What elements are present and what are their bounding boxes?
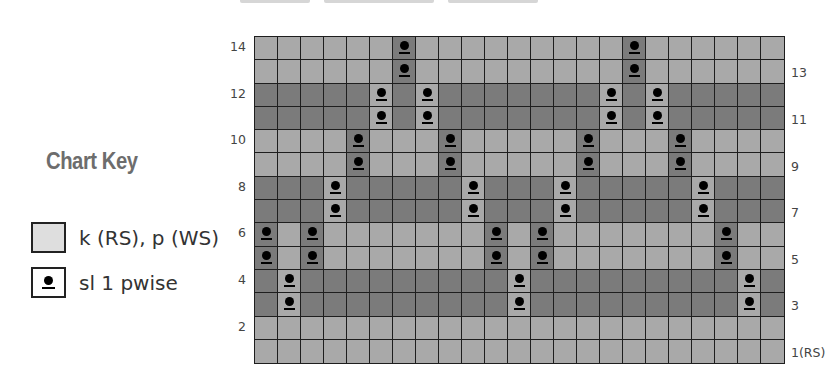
knit-cell bbox=[462, 107, 485, 130]
knit-cell bbox=[577, 223, 600, 246]
knit-cell bbox=[416, 223, 439, 246]
knit-cell bbox=[255, 317, 278, 340]
slip-dot-icon bbox=[377, 88, 386, 97]
knit-cell bbox=[646, 340, 669, 363]
slip-stitch-cell bbox=[692, 177, 715, 200]
row-number-label: 4 bbox=[224, 272, 246, 287]
knit-cell bbox=[600, 153, 623, 176]
knit-cell bbox=[324, 107, 347, 130]
knit-cell bbox=[462, 293, 485, 316]
knit-cell bbox=[347, 60, 370, 83]
slip-stitch-cell bbox=[416, 107, 439, 130]
knit-cell bbox=[370, 37, 393, 60]
slip-stitch-cell bbox=[347, 130, 370, 153]
knit-cell bbox=[600, 270, 623, 293]
row-number-label: 6 bbox=[224, 225, 246, 240]
knit-cell bbox=[278, 130, 301, 153]
knit-cell bbox=[347, 84, 370, 107]
knit-cell bbox=[416, 317, 439, 340]
slip-stitch-cell bbox=[554, 177, 577, 200]
knit-cell bbox=[416, 60, 439, 83]
knit-cell bbox=[554, 340, 577, 363]
knit-cell bbox=[531, 177, 554, 200]
knit-cell bbox=[715, 153, 738, 176]
knit-cell bbox=[646, 37, 669, 60]
slip-stitch-cell bbox=[324, 177, 347, 200]
knit-cell bbox=[301, 37, 324, 60]
knit-cell bbox=[738, 84, 761, 107]
slip-dot-icon bbox=[538, 227, 547, 236]
knit-cell bbox=[761, 223, 784, 246]
knit-cell bbox=[485, 317, 508, 340]
knit-cell bbox=[324, 293, 347, 316]
knit-cell bbox=[462, 270, 485, 293]
knit-cell bbox=[738, 37, 761, 60]
knit-cell bbox=[324, 247, 347, 270]
knit-cell bbox=[761, 247, 784, 270]
slip-dot-icon bbox=[699, 181, 708, 190]
knit-cell bbox=[370, 177, 393, 200]
knit-cell bbox=[715, 107, 738, 130]
slip-dot-icon bbox=[630, 41, 639, 50]
knit-cell bbox=[692, 247, 715, 270]
key-item-label: k (RS), p (WS) bbox=[79, 226, 219, 250]
knit-cell bbox=[439, 84, 462, 107]
knit-cell bbox=[577, 340, 600, 363]
knit-cell bbox=[715, 37, 738, 60]
knit-cell bbox=[600, 317, 623, 340]
knit-cell bbox=[255, 177, 278, 200]
knit-cell bbox=[393, 84, 416, 107]
knit-cell bbox=[485, 130, 508, 153]
knit-cell bbox=[761, 270, 784, 293]
knit-cell bbox=[508, 317, 531, 340]
knit-cell bbox=[531, 317, 554, 340]
knit-cell bbox=[393, 223, 416, 246]
knit-cell bbox=[370, 153, 393, 176]
knit-cell bbox=[623, 247, 646, 270]
knit-cell bbox=[255, 107, 278, 130]
knit-cell bbox=[301, 84, 324, 107]
knit-cell bbox=[370, 130, 393, 153]
knit-cell bbox=[738, 60, 761, 83]
slip-stitch-cell bbox=[485, 223, 508, 246]
knit-cell bbox=[439, 60, 462, 83]
slip-stitch-cell bbox=[600, 107, 623, 130]
knit-cell bbox=[347, 270, 370, 293]
knit-cell bbox=[255, 293, 278, 316]
knit-cell bbox=[715, 293, 738, 316]
slip-stitch-cell bbox=[738, 293, 761, 316]
knit-cell bbox=[416, 37, 439, 60]
knit-cell bbox=[255, 37, 278, 60]
knit-cell bbox=[531, 340, 554, 363]
slip-dot-icon bbox=[308, 251, 317, 260]
slip-stitch-cell bbox=[324, 200, 347, 223]
knit-cell bbox=[439, 340, 462, 363]
knit-cell bbox=[646, 130, 669, 153]
knit-cell bbox=[623, 340, 646, 363]
knit-cell bbox=[393, 153, 416, 176]
knit-cell bbox=[715, 177, 738, 200]
knit-cell bbox=[554, 130, 577, 153]
slip-stitch-cell bbox=[669, 130, 692, 153]
knit-cell bbox=[715, 340, 738, 363]
row-number-label: 11 bbox=[791, 112, 807, 127]
slip-dot-icon bbox=[262, 227, 271, 236]
key-item-knit-purl: k (RS), p (WS) bbox=[31, 222, 219, 253]
knit-cell bbox=[301, 340, 324, 363]
slip-dot-icon bbox=[492, 227, 501, 236]
knit-cell bbox=[646, 60, 669, 83]
knit-cell bbox=[439, 107, 462, 130]
knit-cell bbox=[278, 247, 301, 270]
knit-cell bbox=[347, 223, 370, 246]
knit-cell bbox=[531, 200, 554, 223]
knit-cell bbox=[531, 130, 554, 153]
knit-cell bbox=[692, 223, 715, 246]
knit-cell bbox=[669, 293, 692, 316]
knit-cell bbox=[255, 130, 278, 153]
knit-cell bbox=[393, 340, 416, 363]
knit-cell bbox=[324, 153, 347, 176]
knit-cell bbox=[370, 340, 393, 363]
knit-cell bbox=[416, 130, 439, 153]
knit-cell bbox=[416, 293, 439, 316]
knit-cell bbox=[715, 270, 738, 293]
